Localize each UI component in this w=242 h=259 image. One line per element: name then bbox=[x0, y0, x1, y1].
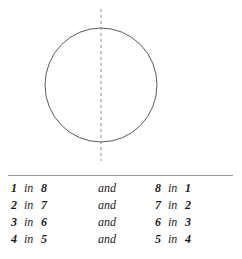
table-row: 1 in 8 and 8 in 1 bbox=[0, 180, 242, 197]
right-relation-label: in bbox=[168, 214, 177, 231]
table-top-rule bbox=[8, 175, 233, 176]
left-relation-label: in bbox=[24, 214, 33, 231]
left-relation-label: in bbox=[24, 197, 33, 214]
right-second-number: 2 bbox=[185, 197, 191, 214]
left-relation-label: in bbox=[24, 231, 33, 248]
connector-label: and bbox=[98, 231, 116, 248]
left-second-number: 6 bbox=[41, 214, 47, 231]
right-second-number: 3 bbox=[185, 214, 191, 231]
circle-figure bbox=[0, 0, 242, 168]
right-first-number: 5 bbox=[155, 231, 161, 248]
left-second-number: 8 bbox=[41, 180, 47, 197]
left-first-number: 2 bbox=[11, 197, 17, 214]
connector-label: and bbox=[98, 197, 116, 214]
circle-diagram-svg bbox=[0, 0, 242, 168]
right-relation-label: in bbox=[168, 231, 177, 248]
left-first-number: 1 bbox=[11, 180, 17, 197]
right-relation-label: in bbox=[168, 197, 177, 214]
right-first-number: 7 bbox=[155, 197, 161, 214]
table-rows: 1 in 8 and 8 in 1 2 in 7 and 7 in 2 3 in… bbox=[0, 180, 242, 248]
connector-label: and bbox=[98, 214, 116, 231]
table-row: 2 in 7 and 7 in 2 bbox=[0, 197, 242, 214]
right-first-number: 8 bbox=[155, 180, 161, 197]
left-second-number: 7 bbox=[41, 197, 47, 214]
right-second-number: 4 bbox=[185, 231, 191, 248]
right-second-number: 1 bbox=[185, 180, 191, 197]
left-second-number: 5 bbox=[41, 231, 47, 248]
figure-page: 1 in 8 and 8 in 1 2 in 7 and 7 in 2 3 in… bbox=[0, 0, 242, 259]
table-row: 3 in 6 and 6 in 3 bbox=[0, 214, 242, 231]
left-relation-label: in bbox=[24, 180, 33, 197]
left-first-number: 3 bbox=[11, 214, 17, 231]
left-first-number: 4 bbox=[11, 231, 17, 248]
connector-label: and bbox=[98, 180, 116, 197]
right-relation-label: in bbox=[168, 180, 177, 197]
right-first-number: 6 bbox=[155, 214, 161, 231]
table-row: 4 in 5 and 5 in 4 bbox=[0, 231, 242, 248]
